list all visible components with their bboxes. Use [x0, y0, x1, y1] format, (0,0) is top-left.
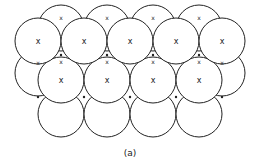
sphere-center-marker: x: [220, 37, 225, 46]
tetrahedral-site-marker: x: [197, 58, 201, 65]
sphere-center-marker: x: [151, 76, 156, 85]
tetrahedral-site-marker: x: [105, 58, 109, 65]
tetrahedral-site-marker: x: [151, 14, 155, 21]
tetrahedral-site-marker: x: [151, 58, 155, 65]
octahedral-site-dot: [83, 96, 85, 98]
sphere-center-marker: x: [59, 76, 64, 85]
sphere-center-marker: x: [174, 37, 179, 46]
sphere-center-marker: x: [128, 37, 133, 46]
figure-label: (a): [118, 148, 142, 158]
tetrahedral-site-marker: x: [220, 59, 224, 66]
octahedral-site-dot: [60, 54, 62, 56]
sphere-center-marker: x: [36, 37, 41, 46]
sphere-center-marker: x: [105, 76, 110, 85]
tetrahedral-site-marker: x: [59, 14, 63, 21]
octahedral-site-dot: [221, 96, 223, 98]
tetrahedral-site-marker: x: [197, 14, 201, 21]
tetrahedral-site-marker: x: [59, 58, 63, 65]
octahedral-site-dot: [106, 54, 108, 56]
tetrahedral-site-marker: x: [36, 59, 40, 66]
sphere-center-marker: x: [197, 76, 202, 85]
tetrahedral-site-marker: x: [105, 14, 109, 21]
octahedral-site-dot: [198, 54, 200, 56]
octahedral-site-dot: [37, 96, 39, 98]
octahedral-site-dot: [152, 54, 154, 56]
sphere-center-marker: x: [82, 37, 87, 46]
close-packing-diagram: xxxxxxxxxxxxxxxxxxx: [0, 0, 258, 166]
octahedral-site-dot: [129, 96, 131, 98]
octahedral-site-dot: [175, 96, 177, 98]
